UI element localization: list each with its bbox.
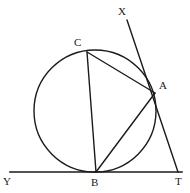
point-label-t: T xyxy=(175,176,182,187)
geometry-figure: X C A Y B T xyxy=(0,0,190,193)
point-label-a: A xyxy=(159,80,167,91)
segment-chord-BA xyxy=(96,93,155,172)
point-label-y: Y xyxy=(3,176,11,187)
point-label-c: C xyxy=(74,37,81,48)
point-label-b: B xyxy=(91,177,98,188)
geometry-canvas xyxy=(0,0,190,193)
segment-chord-CB xyxy=(87,52,96,172)
point-label-x: X xyxy=(118,6,126,17)
